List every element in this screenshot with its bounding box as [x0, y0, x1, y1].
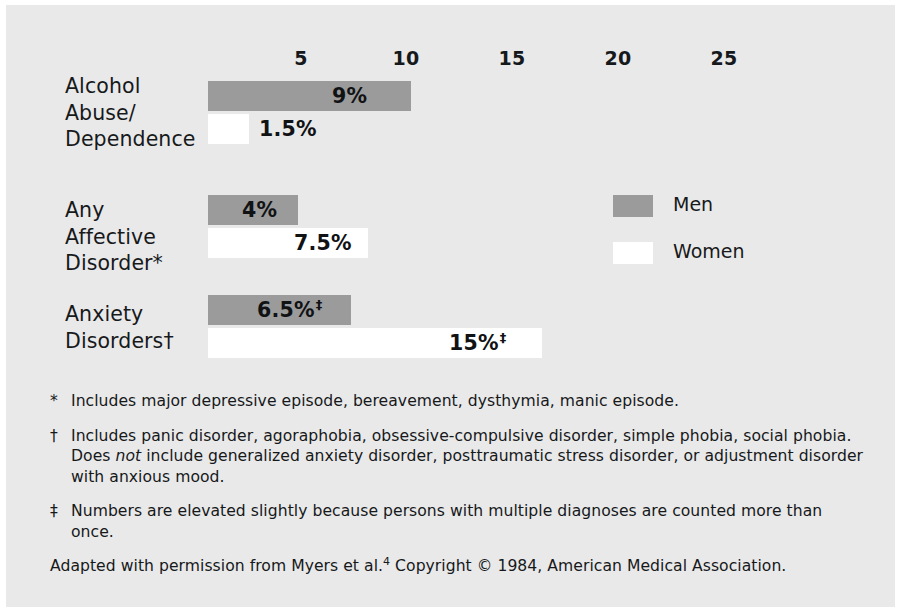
legend-swatch-men [613, 195, 653, 217]
footnote-dagger-emphasis: not [115, 447, 141, 465]
bar-value-men-anxiety-text: 6.5% [257, 298, 315, 322]
bar-value-men-affective: 4% [242, 195, 277, 225]
bar-value-women-affective: 7.5% [294, 228, 352, 258]
footnote-dagger-text-after: include generalized anxiety disorder, po… [71, 447, 863, 486]
axis-tick-25: 25 [710, 47, 737, 69]
bar-women-alcohol [208, 114, 249, 144]
footnote-asterisk-marker: * [50, 391, 58, 412]
axis-tick-10: 10 [392, 47, 419, 69]
axis-tick-15: 15 [498, 47, 525, 69]
bar-value-women-anxiety-text: 15% [449, 331, 499, 355]
axis-tick-20: 20 [604, 47, 631, 69]
footnote-asterisk-text: Includes major depressive episode, berea… [71, 392, 679, 410]
footnote-dagger: †Includes panic disorder, agoraphobia, o… [50, 426, 865, 488]
bar-value-women-anxiety: 15%‡ [449, 328, 506, 358]
legend-label-men: Men [673, 193, 713, 215]
bar-value-men-anxiety: 6.5%‡ [257, 295, 322, 325]
bar-value-men-alcohol: 9% [332, 81, 367, 111]
legend-swatch-women [613, 242, 653, 264]
footnote-double-dagger: ‡Numbers are elevated slightly because p… [50, 501, 865, 542]
bar-value-women-alcohol: 1.5% [259, 114, 317, 144]
bar-chart-plot-area: 5 10 15 20 25 Alcohol Abuse/ Dependence … [6, 5, 899, 385]
bar-value-men-anxiety-marker: ‡ [315, 297, 323, 312]
bar-value-women-anxiety-marker: ‡ [499, 330, 507, 345]
axis-tick-5: 5 [294, 47, 308, 69]
footnote-double-dagger-text: Numbers are elevated slightly because pe… [71, 502, 822, 541]
bar-group-label-alcohol: Alcohol Abuse/ Dependence [65, 73, 196, 153]
source-credit: Adapted with permission from Myers et al… [50, 556, 865, 577]
footnote-double-dagger-marker: ‡ [50, 501, 58, 522]
legend-label-women: Women [673, 240, 745, 262]
figure-panel: 5 10 15 20 25 Alcohol Abuse/ Dependence … [0, 0, 899, 611]
bar-group-label-anxiety: Anxiety Disorders† [65, 301, 174, 354]
source-credit-text-after: Copyright © 1984, American Medical Assoc… [390, 557, 786, 575]
bar-men-alcohol [208, 81, 411, 111]
footnote-asterisk: *Includes major depressive episode, bere… [50, 391, 865, 412]
bar-group-label-affective: Any Affective Disorder* [65, 197, 163, 277]
source-credit-text-before: Adapted with permission from Myers et al… [50, 557, 383, 575]
footnote-dagger-marker: † [50, 426, 58, 447]
footnotes-block: *Includes major depressive episode, bere… [50, 391, 865, 577]
